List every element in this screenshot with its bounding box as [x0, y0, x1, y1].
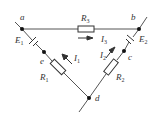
- label-e1: E1: [14, 35, 24, 46]
- lead-d: [79, 98, 89, 112]
- lead-b: [139, 17, 147, 29]
- arrow-i2-icon: [106, 47, 115, 58]
- label-node-b: b: [131, 12, 136, 22]
- label-e2: E2: [138, 34, 148, 45]
- label-r2: R2: [115, 72, 125, 83]
- label-i1: I1: [73, 53, 80, 64]
- node-e: [42, 50, 46, 54]
- label-node-c: c: [128, 52, 132, 62]
- arrow-i1-icon: [62, 54, 72, 64]
- label-r3: R3: [80, 13, 90, 24]
- circuit-diagram: a b c d e R3 R1 R2 E1 E2 I3 I1 I2: [0, 0, 158, 124]
- wire-r1-d: [64, 73, 89, 98]
- wire-b-c: [124, 29, 139, 51]
- battery-e2: [126, 35, 134, 44]
- resistor-r3: [78, 26, 94, 32]
- node-d: [87, 96, 91, 100]
- node-b: [137, 27, 141, 31]
- arrow-i3-icon: [78, 36, 93, 40]
- label-i3: I3: [100, 34, 107, 45]
- label-node-a: a: [20, 12, 25, 22]
- node-a: [20, 27, 24, 31]
- label-r1: R1: [39, 72, 49, 83]
- label-node-d: d: [95, 93, 100, 103]
- label-node-e: e: [40, 56, 44, 66]
- label-i2: I2: [99, 50, 106, 61]
- resistor-r1: [50, 59, 66, 75]
- node-c: [122, 49, 126, 53]
